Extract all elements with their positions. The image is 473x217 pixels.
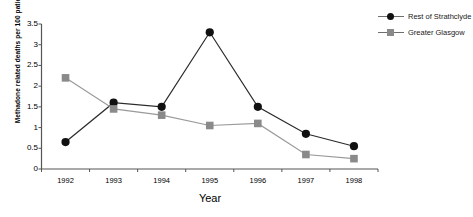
data-point-marker [62,74,70,82]
series-line [66,78,354,159]
data-series-layer [61,28,358,162]
legend-marker-circle-icon [378,10,404,22]
data-point-marker [158,111,166,119]
data-point-marker [206,122,214,130]
legend-item-rest-of-strathclyde: Rest of Strathclyde [378,9,473,23]
legend-label: Rest of Strathclyde [404,12,471,21]
data-point-marker [158,103,166,111]
x-axis-tick-label: 1996 [238,176,278,185]
series-greater-glasgow [62,74,358,162]
chart-legend: Rest of Strathclyde Greater Glasgow [378,9,473,41]
x-axis-title: Year [40,192,380,204]
legend-label: Greater Glasgow [404,28,465,37]
axis-lines [42,24,379,169]
x-axis-tick-label: 1992 [46,176,86,185]
data-point-marker [302,130,310,138]
x-axis-tick-label: 1995 [190,176,230,185]
data-point-marker [61,138,69,146]
x-axis-tick-label: 1998 [334,176,374,185]
x-axis-tick-label: 1994 [142,176,182,185]
data-point-marker [350,142,358,150]
data-point-marker [254,120,262,128]
series-rest-of-strathclyde [61,28,358,150]
data-point-marker [350,155,358,163]
data-point-marker [110,105,118,113]
x-axis-tick-label: 1993 [94,176,134,185]
data-point-marker [254,103,262,111]
x-axis-tick-label: 1997 [286,176,326,185]
data-point-marker [206,28,214,36]
legend-marker-square-icon [378,26,404,38]
chart-container: Methadone related deaths per 100 patient… [0,0,473,217]
legend-item-greater-glasgow: Greater Glasgow [378,25,473,39]
data-point-marker [302,151,310,159]
